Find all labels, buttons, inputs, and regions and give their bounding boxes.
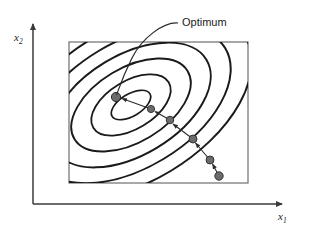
optimum-marker [111, 92, 120, 101]
iterate-6-start-marker [215, 172, 223, 180]
iterate-5-marker [206, 156, 214, 164]
iterate-3-marker [166, 116, 174, 124]
x-axis-label: x1 [277, 210, 287, 225]
y-axis-label: x2 [13, 31, 23, 46]
optimum-label: Optimum [182, 16, 227, 28]
iterate-2-marker [147, 105, 154, 112]
figure-container: x2 x1 [0, 0, 315, 228]
iterate-4-marker [189, 135, 197, 143]
contour-optimization-figure: x2 x1 [0, 0, 315, 228]
